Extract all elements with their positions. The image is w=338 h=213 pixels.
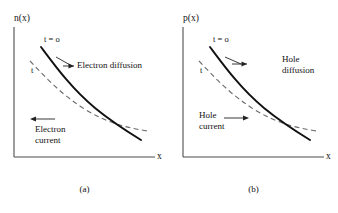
panel-caption-b: (b) [169, 184, 338, 194]
diffusion-arrow-head-b [242, 62, 248, 67]
annotation-electron-diffusion-line1: Electron diffusion [77, 60, 142, 71]
diffusion-arrow-head-a [69, 64, 75, 69]
current-arrow-head-b [243, 115, 249, 120]
annotation-electron-current-line1: Electron [35, 124, 66, 135]
carrier-diffusion-figure: n(x) x t = o t Electron diffusion Electr… [0, 0, 338, 213]
panel-a: n(x) x t = o t Electron diffusion Electr… [0, 0, 169, 213]
curve-label-t0-a: t = o [44, 35, 60, 44]
panel-caption-a: (a) [0, 184, 169, 194]
curve-label-t-a: t [31, 66, 33, 75]
panel-b-plot [169, 0, 338, 180]
annotation-hole-diffusion-line1: Hole [282, 54, 314, 65]
annotation-hole-current: Hole current [199, 110, 224, 132]
annotation-hole-diffusion: Hole diffusion [282, 54, 314, 76]
annotation-hole-diffusion-line2: diffusion [282, 65, 314, 76]
annotation-hole-current-line1: Hole [199, 110, 224, 121]
y-axis-label-b: p(x) [183, 14, 199, 24]
panel-a-plot [0, 0, 169, 180]
annotation-electron-current: Electron current [35, 124, 66, 146]
annotation-hole-current-line2: current [199, 121, 224, 132]
panel-b: p(x) x t = o t Hole diffusion Hole curre… [169, 0, 338, 213]
x-axis-label-b: x [326, 152, 331, 162]
curve-dashed-a [30, 61, 148, 131]
annotation-electron-diffusion: Electron diffusion [77, 60, 142, 71]
curve-label-t-b: t [200, 66, 202, 75]
y-axis-label-a: n(x) [14, 14, 30, 24]
current-arrow-head-a [30, 116, 36, 121]
x-axis-label-a: x [157, 152, 162, 162]
annotation-electron-current-line2: current [35, 135, 66, 146]
diffusion-leader-b [225, 57, 241, 64]
curve-label-t0-b: t = o [213, 35, 229, 44]
